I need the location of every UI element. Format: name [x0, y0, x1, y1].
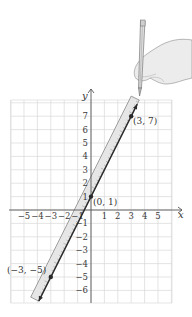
x-tick-label: −3 — [45, 211, 58, 221]
point-label-0-1: (0, 1) — [93, 197, 117, 207]
x-tick-label: 1 — [102, 211, 107, 221]
y-tick-label: 1 — [83, 192, 88, 202]
x-tick-label: −2 — [58, 211, 71, 221]
hand-with-pencil-illustration — [134, 20, 192, 96]
x-tick-label: −5 — [18, 211, 31, 221]
y-tick-label: 2 — [83, 178, 88, 188]
y-tick-label: 4 — [83, 151, 88, 161]
point-label-neg3-neg5: (−3, −5) — [7, 265, 46, 275]
graph-canvas: −5−4−3−2−112345−6−5−4−3−2−11234567 y x (… — [0, 0, 192, 317]
x-axis-label: x — [178, 209, 184, 220]
x-tick-label: 2 — [115, 211, 120, 221]
x-tick-label: 3 — [128, 211, 133, 221]
point-label-3-7: (3, 7) — [133, 116, 157, 126]
y-axis-label: y — [81, 90, 88, 101]
x-tick-label: 4 — [142, 211, 147, 221]
x-tick-label: −4 — [31, 211, 44, 221]
y-tick-label: −6 — [75, 285, 88, 295]
y-tick-label: −3 — [75, 245, 88, 255]
y-tick-label: 7 — [83, 111, 88, 121]
x-tick-label: 5 — [155, 211, 160, 221]
y-tick-label: 5 — [83, 138, 88, 148]
y-tick-label: 3 — [83, 165, 88, 175]
y-tick-label: −4 — [75, 259, 88, 269]
data-point — [49, 275, 53, 279]
y-tick-label: −2 — [75, 232, 88, 242]
y-tick-label: 6 — [83, 125, 88, 135]
y-tick-label: −5 — [75, 272, 88, 282]
